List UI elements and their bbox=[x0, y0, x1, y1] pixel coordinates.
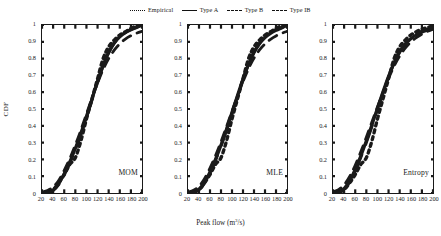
x-tick-label: 80 bbox=[363, 196, 369, 202]
y-tick-label: 0.3 bbox=[319, 140, 327, 146]
y-tick-label: 0.5 bbox=[319, 106, 327, 112]
legend-item-typeIB: Type IB bbox=[272, 6, 310, 13]
y-tick-label: 0.3 bbox=[174, 140, 182, 146]
y-tick-label: 0.4 bbox=[174, 123, 182, 129]
x-tick-labels: 20406080100120140160180200 bbox=[187, 196, 288, 208]
legend-item-typeB: Type B bbox=[227, 6, 263, 13]
y-tick-label: 0.1 bbox=[28, 174, 36, 180]
chart-legend: EmpiricalType AType BType IB bbox=[0, 6, 441, 13]
y-tick-label: 0.7 bbox=[28, 72, 36, 78]
y-tick-label: 0.9 bbox=[28, 38, 36, 44]
y-tick-label: 1 bbox=[33, 21, 36, 27]
x-tick-label: 20 bbox=[184, 196, 190, 202]
legend-label: Empirical bbox=[148, 6, 173, 13]
x-tick-labels: 20406080100120140160180200 bbox=[41, 196, 143, 208]
panel-label-mom: MOM bbox=[118, 168, 138, 177]
y-tick-label: 0.2 bbox=[28, 157, 36, 163]
x-tick-label: 40 bbox=[340, 196, 346, 202]
legend-label: Type A bbox=[200, 6, 219, 13]
x-tick-label: 120 bbox=[238, 196, 247, 202]
x-tick-label: 140 bbox=[104, 196, 113, 202]
legend-swatch-empirical-icon bbox=[130, 7, 145, 12]
x-tick-label: 200 bbox=[283, 196, 292, 202]
x-tick-label: 20 bbox=[329, 196, 335, 202]
y-tick-label: 0.4 bbox=[319, 123, 327, 129]
cdf-figure: EmpiricalType AType BType IB CDF00.10.20… bbox=[0, 0, 441, 236]
y-tick-label: 0.6 bbox=[319, 89, 327, 95]
legend-label: Type B bbox=[245, 6, 264, 13]
x-tick-labels: 20406080100120140160180200 bbox=[332, 196, 434, 208]
x-tick-label: 60 bbox=[206, 196, 212, 202]
x-tick-label: 20 bbox=[38, 196, 44, 202]
y-tick-label: 1 bbox=[324, 21, 327, 27]
x-tick-label: 160 bbox=[407, 196, 416, 202]
panel-label-mle: MLE bbox=[266, 168, 283, 177]
y-tick-label: 0.6 bbox=[28, 89, 36, 95]
y-tick-label: 0.1 bbox=[319, 174, 327, 180]
x-tick-label: 160 bbox=[261, 196, 270, 202]
y-tick-label: 0.9 bbox=[319, 38, 327, 44]
y-tick-label: 0 bbox=[33, 191, 36, 197]
x-axis-title: Peak flow (m3/s) bbox=[0, 218, 441, 227]
x-tick-label: 80 bbox=[218, 196, 224, 202]
y-tick-labels: 00.10.20.30.40.50.60.70.80.91 bbox=[148, 24, 185, 194]
legend-swatch-typeA-icon bbox=[182, 7, 197, 12]
legend-item-typeA: Type A bbox=[182, 6, 218, 13]
legend-item-empirical: Empirical bbox=[130, 6, 173, 13]
x-tick-label: 60 bbox=[61, 196, 67, 202]
panel-entropy: 00.10.20.30.40.50.60.70.80.9120406080100… bbox=[293, 18, 441, 218]
x-tick-label: 120 bbox=[384, 196, 393, 202]
y-tick-labels: 00.10.20.30.40.50.60.70.80.91 bbox=[293, 24, 330, 194]
panel-label-entropy: Entropy bbox=[403, 168, 429, 177]
y-tick-label: 0.2 bbox=[174, 157, 182, 163]
x-tick-label: 100 bbox=[82, 196, 91, 202]
y-tick-label: 0.7 bbox=[174, 72, 182, 78]
panel-mle: 00.10.20.30.40.50.60.70.80.9120406080100… bbox=[148, 18, 295, 218]
y-tick-label: 0.9 bbox=[174, 38, 182, 44]
y-tick-label: 0.6 bbox=[174, 89, 182, 95]
y-tick-label: 0.5 bbox=[28, 106, 36, 112]
y-tick-label: 0.2 bbox=[319, 157, 327, 163]
x-tick-label: 100 bbox=[373, 196, 382, 202]
x-tick-label: 180 bbox=[272, 196, 281, 202]
panel-row: CDF00.10.20.30.40.50.60.70.80.9120406080… bbox=[0, 18, 441, 218]
x-tick-label: 120 bbox=[93, 196, 102, 202]
x-tick-label: 140 bbox=[395, 196, 404, 202]
y-tick-label: 0.8 bbox=[319, 55, 327, 61]
y-tick-label: 0 bbox=[179, 191, 182, 197]
y-tick-label: 0.4 bbox=[28, 123, 36, 129]
x-tick-label: 180 bbox=[418, 196, 427, 202]
y-tick-labels: 00.10.20.30.40.50.60.70.80.91 bbox=[2, 24, 39, 194]
x-tick-label: 80 bbox=[72, 196, 78, 202]
y-tick-label: 1 bbox=[179, 21, 182, 27]
panel-mom: CDF00.10.20.30.40.50.60.70.80.9120406080… bbox=[2, 18, 150, 218]
y-tick-label: 0.1 bbox=[174, 174, 182, 180]
legend-label: Type IB bbox=[290, 6, 311, 13]
x-tick-label: 100 bbox=[227, 196, 236, 202]
x-axis-title-tail: /s) bbox=[238, 219, 245, 227]
x-tick-label: 160 bbox=[116, 196, 125, 202]
legend-swatch-typeIB-icon bbox=[272, 7, 287, 12]
x-tick-label: 200 bbox=[138, 196, 147, 202]
x-tick-label: 180 bbox=[127, 196, 136, 202]
x-tick-label: 200 bbox=[429, 196, 438, 202]
legend-swatch-typeB-icon bbox=[227, 7, 242, 12]
x-tick-label: 140 bbox=[250, 196, 259, 202]
x-tick-label: 60 bbox=[352, 196, 358, 202]
y-tick-label: 0.8 bbox=[28, 55, 36, 61]
x-axis-title-text: Peak flow (m bbox=[196, 219, 235, 227]
y-tick-label: 0 bbox=[324, 191, 327, 197]
x-tick-label: 40 bbox=[195, 196, 201, 202]
y-tick-label: 0.7 bbox=[319, 72, 327, 78]
x-tick-label: 40 bbox=[49, 196, 55, 202]
y-tick-label: 0.3 bbox=[28, 140, 36, 146]
y-tick-label: 0.8 bbox=[174, 55, 182, 61]
y-tick-label: 0.5 bbox=[174, 106, 182, 112]
